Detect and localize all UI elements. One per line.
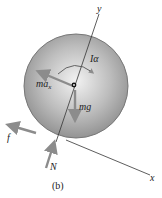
figure-caption: (b)	[52, 180, 64, 192]
friction-arrow-icon	[12, 126, 36, 133]
x-axis-line	[66, 140, 150, 175]
weight-label: mg	[79, 101, 91, 112]
friction-label: f	[7, 132, 11, 143]
free-body-diagram: x y Iα max mg f N (b)	[0, 0, 162, 198]
center-pin-hole	[73, 84, 75, 86]
moment-label: Iα	[89, 53, 99, 64]
normal-label: N	[49, 161, 58, 172]
x-axis-label: x	[149, 172, 155, 183]
y-axis-label: y	[96, 3, 102, 14]
